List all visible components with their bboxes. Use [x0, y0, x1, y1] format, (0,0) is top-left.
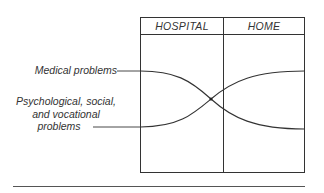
psychosocial-label-line-1: Psychological, social,: [11, 95, 121, 108]
intersection-point: [209, 97, 212, 100]
psychosocial-problems-label: Psychological, social, and vocational pr…: [11, 95, 121, 133]
column-header-hospital: HOSPITAL: [141, 17, 223, 35]
psychosocial-problems-curve: [141, 71, 305, 127]
medical-problems-label: Medical problems: [35, 64, 117, 77]
medical-problems-curve: [141, 71, 305, 129]
diagram: HOSPITAL HOME Medical problems Psycholog…: [0, 0, 324, 193]
psychosocial-label-line-2: and vocational: [11, 108, 121, 121]
psychosocial-label-line-3: problems: [11, 120, 121, 133]
frame-box: [141, 18, 305, 173]
column-header-home: HOME: [224, 17, 304, 35]
